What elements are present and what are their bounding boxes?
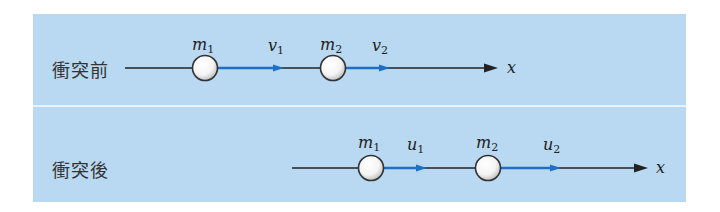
velocity-arrowhead-icon [273, 65, 284, 72]
velocity-label-u2: u2 [543, 135, 560, 156]
velocity-arrowhead-icon [379, 65, 390, 72]
velocity-label-v1: v1 [268, 36, 284, 57]
x-axis-arrowhead-icon [484, 64, 498, 73]
mass-label-m2: m2 [476, 133, 498, 154]
collision-diagram: x m1 v1 m2 v2 x m1 u1 m2 u2 [0, 0, 720, 212]
ball-m1-icon [359, 156, 384, 181]
x-axis-label: x [507, 58, 516, 77]
mass-label-m1: m1 [192, 35, 214, 56]
ball-m2-icon [321, 56, 346, 81]
mass-label-m1: m1 [358, 133, 380, 154]
velocity-arrowhead-icon [416, 165, 427, 172]
ball-m1-icon [193, 56, 218, 81]
velocity-label-u1: u1 [407, 135, 424, 156]
ball-m2-icon [476, 156, 501, 181]
mass-label-m2: m2 [320, 35, 342, 56]
x-axis-arrowhead-icon [634, 164, 648, 173]
velocity-label-v2: v2 [372, 36, 388, 57]
after-row: x m1 u1 m2 u2 [292, 133, 665, 181]
velocity-arrowhead-icon [550, 165, 561, 172]
x-axis-label: x [656, 158, 665, 177]
before-row: x m1 v1 m2 v2 [125, 35, 516, 81]
